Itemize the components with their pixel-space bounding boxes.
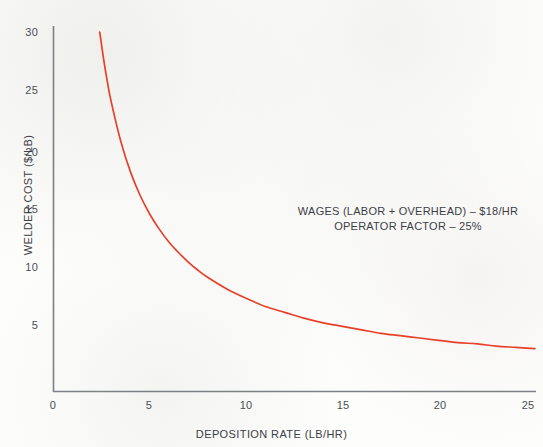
x-axis-title: DEPOSITION RATE (LB/HR)	[0, 428, 543, 440]
x-tick-label-0: 0	[40, 399, 66, 411]
annotation-line-operator-factor: OPERATOR FACTOR – 25%	[283, 219, 533, 234]
x-tick-label-15: 15	[330, 399, 356, 411]
y-axis-title: WELDER COST ($/LB)	[22, 105, 34, 285]
y-tick-label-30: 30	[12, 26, 38, 38]
x-tick-label-5: 5	[136, 399, 162, 411]
x-tick-label-20: 20	[427, 399, 453, 411]
y-tick-label-5: 5	[12, 319, 38, 331]
chart-annotation: WAGES (LABOR + OVERHEAD) – $18/HR OPERAT…	[283, 204, 533, 234]
y-tick-label-25: 25	[12, 84, 38, 96]
data-curve-welder-cost	[100, 32, 535, 349]
annotation-line-wages: WAGES (LABOR + OVERHEAD) – $18/HR	[283, 204, 533, 219]
x-tick-label-10: 10	[233, 399, 259, 411]
chart-figure: 30 25 20 15 10 5 0 5 10 15 20 25 WELDER …	[0, 0, 543, 447]
x-tick-label-25: 25	[515, 399, 541, 411]
